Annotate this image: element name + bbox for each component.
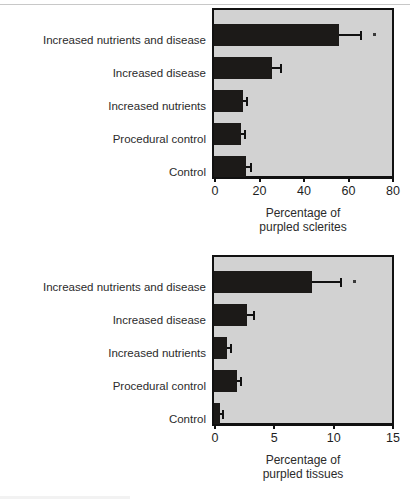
bar-row bbox=[214, 403, 392, 425]
category-label: Increased nutrients bbox=[0, 100, 206, 112]
bar bbox=[214, 271, 312, 293]
bar-row bbox=[214, 57, 392, 79]
x-axis-tick bbox=[214, 424, 216, 429]
x-axis-title-bottom: Percentage of purpled tissues bbox=[212, 453, 394, 481]
x-axis-tick bbox=[392, 177, 394, 182]
bar-row bbox=[214, 156, 392, 178]
chart-panel-purpled-sclerites: Increased nutrients and diseaseIncreased… bbox=[0, 8, 410, 248]
x-axis-title-bottom-line1: Percentage of bbox=[212, 453, 394, 467]
x-axis-tick-label: 60 bbox=[342, 184, 356, 198]
significance-marker bbox=[373, 33, 376, 36]
plot-area-bottom bbox=[212, 255, 394, 425]
bar-row bbox=[214, 304, 392, 326]
bar bbox=[214, 370, 237, 392]
x-axis-tick bbox=[259, 177, 261, 182]
bar-row bbox=[214, 123, 392, 145]
x-axis-title-top: Percentage of purpled sclerites bbox=[212, 206, 394, 234]
error-bar-cap bbox=[340, 278, 342, 287]
significance-marker bbox=[353, 280, 356, 283]
bar-row bbox=[214, 24, 392, 46]
error-bar-cap bbox=[246, 97, 248, 106]
chart-panel-purpled-tissues: Increased nutrients and diseaseIncreased… bbox=[0, 255, 410, 495]
bar bbox=[214, 304, 247, 326]
x-axis-tick bbox=[333, 424, 335, 429]
bar bbox=[214, 337, 227, 359]
error-bar-cap bbox=[240, 377, 242, 386]
x-axis-line-bottom bbox=[212, 424, 394, 426]
plot-area-top bbox=[212, 8, 394, 178]
category-label: Procedural control bbox=[0, 133, 206, 145]
x-axis-title-bottom-line2: purpled tissues bbox=[212, 467, 394, 481]
error-bar-cap bbox=[222, 410, 224, 419]
error-bar-line bbox=[312, 281, 339, 283]
x-axis-tick bbox=[303, 177, 305, 182]
bar-row bbox=[214, 271, 392, 293]
bar-row bbox=[214, 337, 392, 359]
category-label: Increased nutrients and disease bbox=[0, 281, 206, 293]
bar-row bbox=[214, 90, 392, 112]
category-label: Increased disease bbox=[0, 314, 206, 326]
error-bar-cap bbox=[253, 311, 255, 320]
bar bbox=[214, 57, 272, 79]
error-bar-line bbox=[272, 67, 280, 69]
category-label-column-bottom: Increased nutrients and diseaseIncreased… bbox=[0, 255, 210, 425]
x-axis-bottom: 051015 bbox=[212, 424, 394, 454]
x-axis-tick bbox=[392, 424, 394, 429]
x-axis-title-top-line2: purpled sclerites bbox=[212, 220, 394, 234]
error-bar-cap bbox=[244, 130, 246, 139]
x-axis-tick-label: 5 bbox=[271, 431, 278, 445]
x-axis-tick bbox=[214, 177, 216, 182]
category-label: Increased nutrients bbox=[0, 347, 206, 359]
x-axis-tick-label: 0 bbox=[212, 184, 219, 198]
scan-artifact-top bbox=[0, 4, 410, 5]
category-label-column-top: Increased nutrients and diseaseIncreased… bbox=[0, 8, 210, 178]
category-label: Increased nutrients and disease bbox=[0, 34, 206, 46]
x-axis-tick-label: 40 bbox=[297, 184, 311, 198]
x-axis-tick-label: 80 bbox=[386, 184, 400, 198]
x-axis-title-top-line1: Percentage of bbox=[212, 206, 394, 220]
bar bbox=[214, 24, 339, 46]
x-axis-top: 020406080 bbox=[212, 177, 394, 207]
bar-row bbox=[214, 370, 392, 392]
x-axis-tick-label: 15 bbox=[386, 431, 400, 445]
error-bar-cap bbox=[250, 163, 252, 172]
scan-artifact-bottom bbox=[0, 496, 130, 499]
error-bar-line bbox=[339, 34, 360, 36]
bar bbox=[214, 156, 246, 178]
error-bar-cap bbox=[280, 64, 282, 73]
error-bar-cap bbox=[230, 344, 232, 353]
bar bbox=[214, 90, 243, 112]
category-label: Procedural control bbox=[0, 380, 206, 392]
x-axis-tick bbox=[273, 424, 275, 429]
x-axis-tick-label: 20 bbox=[253, 184, 267, 198]
category-label: Control bbox=[0, 166, 206, 178]
category-label: Control bbox=[0, 413, 206, 425]
bar bbox=[214, 123, 241, 145]
x-axis-tick-label: 10 bbox=[327, 431, 341, 445]
category-label: Increased disease bbox=[0, 67, 206, 79]
x-axis-tick bbox=[348, 177, 350, 182]
error-bar-cap bbox=[360, 31, 362, 40]
x-axis-tick-label: 0 bbox=[212, 431, 219, 445]
